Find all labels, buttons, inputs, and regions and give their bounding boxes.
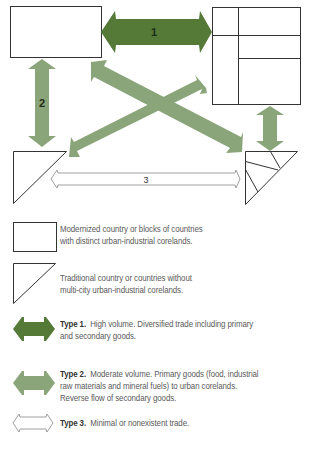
legend-type1-arrow-icon [13,317,55,341]
arrow1-label: 1 [151,26,157,38]
legend-type1-text: Type 1. High volume. Diversified trade i… [60,318,253,342]
legend-type1-title: Type 1. [60,319,86,329]
legend-type3-title: Type 3. [60,418,86,428]
arrow2-label: 2 [39,97,45,109]
legend-traditional-triangle-icon [14,264,56,304]
type2-arrow-vertical-right [256,106,284,151]
legend-type3-arrow-icon [13,414,53,432]
arrow3-label: 3 [143,175,148,185]
traditional-country-block-right [246,152,298,205]
legend-modern-text: Modernized country or blocks of countrie… [60,223,203,247]
legend-traditional-text: Traditional country or countries without… [60,272,192,296]
legend-type3-text: Type 3. Minimal or nonexistent trade. [60,417,189,429]
legend-type2-text: Type 2. Moderate volume. Primary goods (… [60,368,259,404]
modern-country-box-left [11,7,102,58]
legend-type2-title: Type 2. [60,369,86,379]
legend-type2-arrow-icon [13,371,55,395]
modern-country-block-right [213,8,301,105]
legend-modern-box-icon [14,223,57,252]
